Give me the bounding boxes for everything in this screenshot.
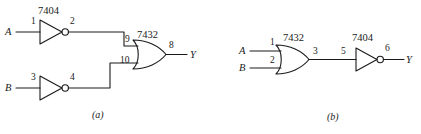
input-label-b-panel-a: B: [5, 83, 11, 94]
pin-label-or-a-input-bottom: 10: [120, 56, 130, 66]
or-gate-a-body: [133, 40, 166, 69]
pin-label-inverter-b-output: 6: [385, 44, 390, 54]
inverter1-body: [40, 20, 62, 44]
input-label-b-panel-b: B: [239, 63, 245, 74]
input-label-a-panel-a: A: [5, 27, 11, 38]
pin-label-inverter-b-input: 5: [341, 47, 346, 57]
pin-label-or-a-output: 8: [169, 41, 174, 51]
pin-label-inverter2-input: 3: [31, 73, 36, 83]
pin-label-inverter1-output: 2: [70, 17, 75, 27]
inverter2-body: [40, 76, 62, 100]
caption-panel-a: (a): [92, 110, 104, 120]
pin-label-inverter1-input: 1: [31, 17, 36, 27]
or-gate-b-body: [276, 45, 309, 74]
chip-label-7404-b: 7404: [352, 33, 373, 44]
pin-label-or-a-input-top: 9: [125, 35, 130, 45]
inverter-b-body: [356, 48, 377, 71]
inverter-b-bubble: [377, 56, 383, 62]
chip-label-7432-a: 7432: [137, 30, 158, 41]
wire-inverter2-to-or-pin10: [68, 63, 138, 88]
chip-label-7404-a: 7404: [38, 6, 59, 17]
pin-label-or-b-input-top: 1: [270, 38, 275, 48]
input-label-a-panel-b: A: [239, 46, 245, 57]
pin-label-or-b-output: 3: [313, 47, 318, 57]
inverter1-bubble: [62, 29, 68, 35]
circuit-schematic-canvas: [0, 0, 421, 134]
pin-label-or-b-input-bottom: 2: [270, 56, 275, 66]
chip-label-7432-b: 7432: [283, 33, 304, 44]
inverter2-bubble: [62, 85, 68, 91]
output-label-y-panel-a: Y: [190, 50, 196, 61]
caption-panel-b: (b): [327, 112, 339, 122]
output-label-y-panel-b: Y: [406, 55, 412, 66]
pin-label-inverter2-output: 4: [70, 73, 75, 83]
logic-circuit-figure: 7404 A 1 2 B 3 4 7432 9 10 8 Y (a) A B 1…: [0, 0, 421, 134]
